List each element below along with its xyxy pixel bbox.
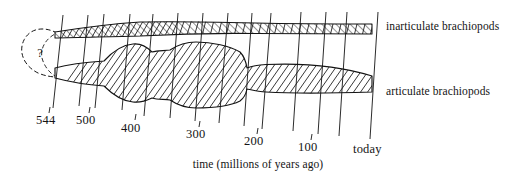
- axis-tick-label-300: 300: [186, 127, 205, 142]
- axis-tick-label-500: 500: [76, 113, 95, 128]
- axis-caption: time (millions of years ago): [0, 158, 516, 170]
- gridline-544: [53, 15, 63, 108]
- axis-tick-label-today: today: [353, 142, 382, 157]
- uncertainty-question-mark: ?: [37, 46, 43, 60]
- uncertain-origin-region: ?: [22, 29, 57, 77]
- axis-tick-label-400: 400: [121, 121, 140, 136]
- axis-tick-label-544: 544: [36, 113, 55, 128]
- figure-root: ?: [0, 0, 516, 181]
- series-label-inarticulate: inarticulate brachiopods: [386, 20, 499, 32]
- axis-tick-label-100: 100: [298, 140, 317, 155]
- series-label-articulate: articulate brachiopods: [386, 85, 490, 97]
- axis-tick-label-200: 200: [244, 134, 263, 149]
